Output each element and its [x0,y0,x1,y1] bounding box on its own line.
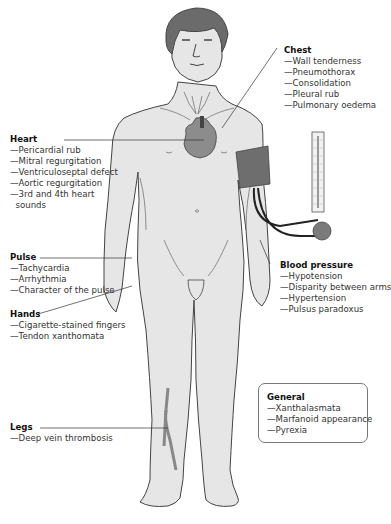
blood-pressure-annotation: Blood pressure —Hypotension —Disparity b… [280,260,391,315]
heart-item: —3rd and 4th heart [10,189,118,200]
chest-item: —Wall tenderness [284,56,376,67]
bp-cuff [236,146,270,188]
legs-item: —Deep vein thrombosis [10,433,113,444]
blood-pressure-item: —Hypotension [280,271,391,282]
chest-title: Chest [284,45,376,56]
chest-item: —Pleural rub [284,89,376,100]
heart-title: Heart [10,134,118,145]
heart-item: —Mitral regurgitation [10,156,118,167]
pulse-annotation: Pulse —Tachycardia —Arrhythmia —Characte… [10,252,115,296]
chest-item: —Pulmonary oedema [284,100,376,111]
legs-annotation: Legs —Deep vein thrombosis [10,422,113,444]
blood-pressure-item: —Disparity between arms [280,282,391,293]
heart-item: —Pericardial rub [10,145,118,156]
general-title: General [267,392,372,403]
heart-annotation: Heart —Pericardial rub —Mitral regurgita… [10,134,118,211]
pulse-title: Pulse [10,252,115,263]
hands-annotation: Hands —Cigarette-stained fingers —Tendon… [10,309,126,342]
pulse-item: —Tachycardia [10,263,115,274]
hands-title: Hands [10,309,126,320]
pulse-item: —Arrhythmia [10,274,115,285]
chest-annotation: Chest —Wall tenderness —Pneumothorax —Co… [284,45,376,111]
heart-item: —Aortic regurgitation [10,178,118,189]
hands-item: —Tendon xanthomata [10,331,126,342]
general-item: —Marfanoid appearance [267,414,372,425]
general-annotation: General —Xanthalasmata —Marfanoid appear… [267,392,372,436]
manometer [312,132,331,240]
legs-title: Legs [10,422,113,433]
chest-item: —Consolidation [284,78,376,89]
blood-pressure-item: —Pulsus paradoxus [280,304,391,315]
head [166,8,228,82]
heart-item: sounds [10,200,118,211]
heart-item: —Ventriculoseptal defect [10,167,118,178]
blood-pressure-item: —Hypertension [280,293,391,304]
general-item: —Pyrexia [267,425,372,436]
hands-item: —Cigarette-stained fingers [10,320,126,331]
pulse-item: —Character of the pulse [10,285,115,296]
bp-bulb [313,222,331,240]
chest-item: —Pneumothorax [284,67,376,78]
general-item: —Xanthalasmata [267,403,372,414]
blood-pressure-title: Blood pressure [280,260,391,271]
